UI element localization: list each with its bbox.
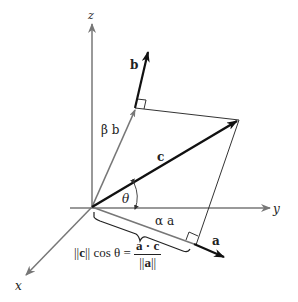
formula-denominator: ||a|| bbox=[134, 255, 161, 271]
x-axis-label: x bbox=[15, 279, 22, 293]
right-angle-mark-b bbox=[137, 99, 146, 109]
vector-decomposition-diagram: z y x b β b c θ α a a ||c|| cos θ = a · … bbox=[0, 0, 298, 302]
c-tip-to-a-tip-line bbox=[196, 120, 239, 245]
formula-fraction: a · c ||a|| bbox=[134, 238, 161, 271]
z-axis-label: z bbox=[87, 9, 94, 22]
c-vector-label: c bbox=[157, 150, 164, 164]
formula-numerator: a · c bbox=[134, 238, 161, 255]
theta-label: θ bbox=[122, 192, 130, 206]
theta-angle-arc bbox=[134, 183, 137, 209]
alpha-a-label: α a bbox=[155, 214, 174, 228]
denominator-norm-close: || bbox=[151, 255, 156, 270]
a-vector-label: a bbox=[212, 234, 220, 248]
beta-b-label: β b bbox=[101, 123, 120, 137]
b-vector-label: b bbox=[130, 58, 138, 72]
y-axis-label: y bbox=[272, 202, 280, 216]
formula-cos-theta: cos θ = bbox=[90, 245, 134, 260]
b-tip-to-c-tip-line bbox=[135, 108, 239, 120]
right-angle-mark-a bbox=[186, 232, 198, 240]
projection-formula: ||c|| cos θ = a · c ||a|| bbox=[74, 238, 161, 271]
